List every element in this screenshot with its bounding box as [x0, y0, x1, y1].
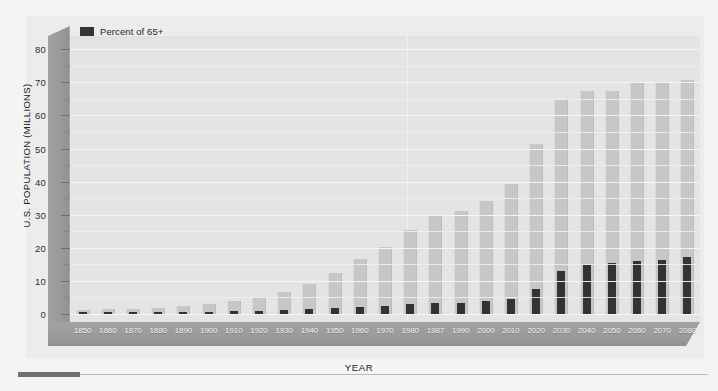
- x-tick-label: 2030: [553, 326, 570, 335]
- bar-total-population: [504, 184, 518, 314]
- gridline: [70, 82, 700, 83]
- bar-group: [322, 36, 347, 322]
- x-tick-label: 1980: [401, 326, 418, 335]
- y-tick: [64, 132, 70, 133]
- gridline: [70, 149, 700, 150]
- x-tick-label: 2010: [502, 326, 519, 335]
- gridline: [70, 66, 700, 67]
- gridline: [70, 182, 700, 183]
- y-tick-label: 20: [35, 242, 46, 253]
- y-tick: [61, 314, 70, 315]
- bar-percent-65plus: [658, 260, 666, 314]
- bar-percent-65plus: [406, 304, 414, 314]
- y-tick-label: 40: [35, 176, 46, 187]
- x-tick-label: 1870: [124, 326, 141, 335]
- plot-area: [70, 36, 700, 322]
- y-tick: [64, 99, 70, 100]
- y-tick-label: 0: [41, 309, 46, 320]
- bar-percent-65plus: [482, 301, 490, 314]
- bar-group: [221, 36, 246, 322]
- bar-total-population: [403, 230, 417, 314]
- bar-group: [272, 36, 297, 322]
- y-axis-title: U.S. POPULATION (MILLIONS): [21, 46, 32, 266]
- gridline: [70, 297, 700, 298]
- gridline: [70, 198, 700, 199]
- bar-group: [574, 36, 599, 322]
- bar-percent-65plus: [608, 263, 616, 314]
- y-tick-label: 30: [35, 209, 46, 220]
- gridline: [70, 215, 700, 216]
- gridline: [70, 99, 700, 100]
- bar-percent-65plus: [507, 299, 515, 314]
- bar-group: [448, 36, 473, 322]
- x-tick-label: 2070: [653, 326, 670, 335]
- bar-group: [95, 36, 120, 322]
- bar-percent-65plus: [683, 257, 691, 314]
- x-tick-label: 2020: [527, 326, 544, 335]
- chart-screenshot: 01020304050607080 1850186018701880189019…: [0, 0, 718, 391]
- bar-group: [120, 36, 145, 322]
- bar-group: [246, 36, 271, 322]
- x-tick-label: 1960: [351, 326, 368, 335]
- y-tick: [61, 149, 70, 150]
- bar-percent-65plus: [633, 261, 641, 314]
- x-tick-label: 1970: [376, 326, 393, 335]
- bar-group: [398, 36, 423, 322]
- y-tick: [64, 264, 70, 265]
- bottom-rule: [18, 372, 708, 378]
- y-tick: [61, 182, 70, 183]
- bar-percent-65plus: [457, 303, 465, 314]
- y-tick: [64, 231, 70, 232]
- gridline: [70, 231, 700, 232]
- bar-group: [473, 36, 498, 322]
- x-tick-label: 1860: [99, 326, 116, 335]
- y-tick-label: 10: [35, 275, 46, 286]
- legend: Percent of 65+: [80, 26, 163, 37]
- bar-group: [347, 36, 372, 322]
- x-tick-label: 1920: [250, 326, 267, 335]
- bar-group: [624, 36, 649, 322]
- bottom-rule-accent: [18, 372, 80, 377]
- bar-group: [70, 36, 95, 322]
- bar-group: [650, 36, 675, 322]
- x-tick-label: 2040: [578, 326, 595, 335]
- bar-total-population: [353, 259, 367, 314]
- x-tick-label: 2050: [603, 326, 620, 335]
- bar-group: [675, 36, 700, 322]
- y-tick: [64, 297, 70, 298]
- y-tick: [61, 215, 70, 216]
- y-tick: [61, 248, 70, 249]
- bar-group: [146, 36, 171, 322]
- gridline: [70, 264, 700, 265]
- y-tick: [61, 115, 70, 116]
- x-tick-label: 1880: [149, 326, 166, 335]
- legend-swatch-percent-65plus: [80, 27, 94, 36]
- bar-percent-65plus: [532, 289, 540, 314]
- x-tick-label: 1987: [427, 326, 444, 335]
- x-tick-label: 2060: [628, 326, 645, 335]
- y-tick: [61, 49, 70, 50]
- y-axis-band: [48, 26, 70, 322]
- x-tick-labels: 1850186018701880189019001910192019301940…: [70, 326, 700, 342]
- y-tick: [64, 165, 70, 166]
- x-tick-label: 1930: [275, 326, 292, 335]
- bar-group: [549, 36, 574, 322]
- gridline: [70, 281, 700, 282]
- gridline: [70, 248, 700, 249]
- bar-group: [297, 36, 322, 322]
- y-tick-label: 60: [35, 110, 46, 121]
- gridline: [70, 115, 700, 116]
- x-tick-label: 1900: [200, 326, 217, 335]
- y-tick: [64, 66, 70, 67]
- bar-percent-65plus: [356, 307, 364, 314]
- bar-group: [372, 36, 397, 322]
- gridline: [70, 49, 700, 50]
- x-tick-label: 1990: [452, 326, 469, 335]
- y-tick: [61, 281, 70, 282]
- bar-group: [196, 36, 221, 322]
- legend-label-percent-65plus: Percent of 65+: [100, 26, 163, 37]
- bar-total-population: [454, 211, 468, 314]
- y-tick-label: 80: [35, 44, 46, 55]
- gridline: [70, 132, 700, 133]
- x-tick-label: 1850: [74, 326, 91, 335]
